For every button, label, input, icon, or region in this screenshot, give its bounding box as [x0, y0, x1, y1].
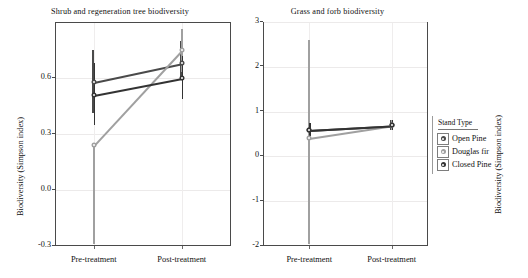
legend-item-closed-pine[interactable]: Closed Pine	[437, 158, 527, 171]
y-axis-tick-label: 0	[231, 150, 259, 159]
y-axis-tick-label: 0.3	[23, 128, 51, 137]
panel-title-shrub: Shrub and regeneration tree biodiversity	[0, 7, 240, 16]
y-gridline	[56, 190, 230, 191]
legend-key-open-pine	[437, 133, 449, 145]
legend-label-douglas-fir: Douglas fir	[452, 147, 489, 156]
y-tick-mark	[52, 189, 55, 190]
y-gridline	[264, 22, 427, 23]
x-tick-mark	[94, 246, 95, 249]
legend-item-douglas-fir[interactable]: Douglas fir	[437, 145, 527, 158]
x-axis-tick-label: Pre-treatment	[49, 255, 139, 264]
y-tick-mark	[52, 133, 55, 134]
legend-title-rule	[438, 129, 478, 130]
y-tick-mark	[260, 200, 263, 201]
y-gridline	[264, 156, 427, 157]
y-axis-tick-label: 3	[231, 16, 259, 25]
y-gridline	[264, 67, 427, 68]
chart-panel-shrub: Shrub and regeneration tree biodiversity…	[0, 0, 240, 278]
legend-title: Stand Type	[437, 118, 527, 127]
x-axis-tick-label: Post-treatment	[347, 255, 437, 264]
data-point-center	[308, 129, 310, 131]
y-axis-tick-label: -1	[231, 195, 259, 204]
chart-panel-grass: Grass and forb biodiversity Biodiversity…	[240, 0, 435, 278]
error-bar	[308, 40, 310, 244]
data-point-center	[391, 124, 393, 126]
data-point-center	[181, 49, 183, 51]
data-point-center	[93, 144, 95, 146]
data-point-center	[181, 77, 183, 79]
panel-title-grass: Grass and forb biodiversity	[240, 7, 435, 16]
data-point-center	[181, 62, 183, 64]
y-axis-tick-label: 0.0	[23, 184, 51, 193]
legend-divider	[432, 116, 433, 174]
y-tick-mark	[260, 65, 263, 66]
legend-key-closed-pine	[437, 159, 449, 171]
data-point-center	[308, 137, 310, 139]
y-axis-tick-label: -0.3	[23, 240, 51, 249]
y-axis-tick-label: 1	[231, 106, 259, 115]
legend-label-open-pine: Open Pine	[452, 134, 486, 143]
x-tick-mark	[392, 246, 393, 249]
data-point-center	[93, 81, 95, 83]
x-tick-mark	[309, 246, 310, 249]
x-gridline	[392, 23, 393, 245]
y-axis-tick-label: -2	[231, 240, 259, 249]
legend-label-closed-pine: Closed Pine	[452, 160, 491, 169]
y-tick-mark	[260, 21, 263, 22]
x-tick-mark	[182, 246, 183, 249]
x-axis-tick-label: Post-treatment	[137, 255, 227, 264]
marker-icon	[441, 136, 446, 141]
y-axis-tick-label: 2	[231, 61, 259, 70]
marker-icon	[441, 149, 446, 154]
y-tick-mark	[260, 110, 263, 111]
error-bar	[93, 145, 95, 244]
y-tick-mark	[260, 155, 263, 156]
y-gridline	[56, 134, 230, 135]
y-gridline	[56, 78, 230, 79]
y-gridline	[264, 112, 427, 113]
figure-panel-container: Shrub and regeneration tree biodiversity…	[0, 0, 528, 278]
legend-key-douglas-fir	[437, 146, 449, 158]
y-tick-mark	[260, 245, 263, 246]
x-axis-tick-label: Pre-treatment	[264, 255, 354, 264]
legend-item-open-pine[interactable]: Open Pine	[437, 132, 527, 145]
legend: Stand Type Open Pine Douglas fir Closed …	[437, 118, 527, 171]
y-tick-mark	[52, 245, 55, 246]
marker-icon	[441, 162, 446, 167]
y-axis-tick-label: 0.6	[23, 72, 51, 81]
data-point-center	[93, 94, 95, 96]
y-gridline	[264, 201, 427, 202]
y-tick-mark	[52, 77, 55, 78]
